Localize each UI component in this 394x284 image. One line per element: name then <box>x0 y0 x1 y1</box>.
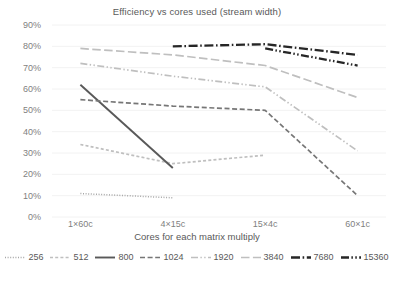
y-tick-label: 40% <box>0 127 46 137</box>
legend-item-1920[interactable]: 1920 <box>191 252 234 262</box>
y-tick-label: 60% <box>0 84 46 94</box>
legend-key-icon <box>241 253 261 262</box>
legend-label: 256 <box>28 252 43 262</box>
legend-item-15360[interactable]: 15360 <box>341 252 389 262</box>
y-tick-label: 80% <box>0 41 46 51</box>
x-tick-label: 60×1c <box>345 219 370 229</box>
y-tick-label: 50% <box>0 105 46 115</box>
series-line-1024 <box>80 100 357 196</box>
legend-item-512[interactable]: 512 <box>50 252 88 262</box>
plot-svg <box>0 18 394 218</box>
legend-key-icon <box>5 253 25 262</box>
series-line-3840 <box>80 48 357 97</box>
legend-item-3840[interactable]: 3840 <box>241 252 284 262</box>
legend-item-1024[interactable]: 1024 <box>140 252 183 262</box>
y-tick-label: 20% <box>0 169 46 179</box>
legend-key-icon <box>341 253 361 262</box>
x-axis-tick-labels: 1×60c4×15c15×4c60×1c <box>0 219 394 231</box>
x-tick-label: 1×60c <box>68 219 93 229</box>
legend-label: 512 <box>73 252 88 262</box>
y-tick-label: 10% <box>0 191 46 201</box>
legend-label: 800 <box>118 252 133 262</box>
legend-label: 1920 <box>214 252 234 262</box>
series-line-15360 <box>265 48 357 65</box>
legend-item-800[interactable]: 800 <box>95 252 133 262</box>
legend-key-icon <box>50 253 70 262</box>
legend-key-icon <box>191 253 211 262</box>
legend-label: 3840 <box>264 252 284 262</box>
legend-item-7680[interactable]: 7680 <box>291 252 334 262</box>
series-line-512 <box>80 144 265 163</box>
chart-container: Efficiency vs cores used (stream width) … <box>0 0 394 284</box>
chart-legend: 256512800102419203840768015360 <box>0 252 394 262</box>
legend-key-icon <box>140 253 160 262</box>
legend-key-icon <box>95 253 115 262</box>
plot-area: 0%10%20%30%40%50%60%70%80%90% <box>0 18 394 218</box>
legend-item-256[interactable]: 256 <box>5 252 43 262</box>
y-tick-label: 90% <box>0 20 46 30</box>
y-tick-label: 30% <box>0 148 46 158</box>
x-axis-title: Cores for each matrix multiply <box>0 231 394 242</box>
x-tick-label: 15×4c <box>253 219 278 229</box>
series-line-1920 <box>80 63 357 150</box>
chart-title: Efficiency vs cores used (stream width) <box>0 6 394 17</box>
y-tick-label: 70% <box>0 63 46 73</box>
legend-label: 15360 <box>364 252 389 262</box>
legend-label: 7680 <box>314 252 334 262</box>
legend-key-icon <box>291 253 311 262</box>
x-tick-label: 4×15c <box>160 219 185 229</box>
legend-label: 1024 <box>163 252 183 262</box>
series-line-800 <box>80 85 172 168</box>
